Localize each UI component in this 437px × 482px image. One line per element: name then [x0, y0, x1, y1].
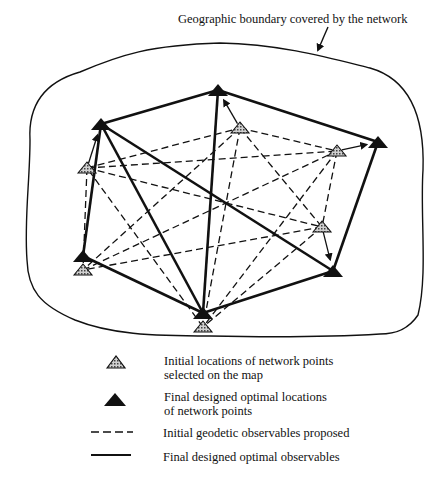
solid-observable-line [203, 271, 333, 313]
dashed-observable-line [240, 128, 337, 151]
hatched-triangle-icon [313, 221, 331, 232]
legend-line: Initial locations of network points [164, 354, 333, 368]
solid-observable-line [203, 90, 218, 313]
shift-arrow [224, 100, 237, 123]
solid-triangle-icon [91, 118, 111, 130]
boundary-caption: Geographic boundary covered by the netwo… [178, 12, 407, 26]
hatched-triangle-icon [328, 145, 346, 156]
legend-initial-locations-label: Initial locations of network points sele… [164, 354, 333, 382]
shift-arrow [342, 145, 366, 150]
solid-observable-line [83, 256, 203, 313]
hatched-triangle-icon [194, 321, 212, 332]
solid-observable-line [101, 124, 203, 313]
shift-arrow [323, 232, 330, 260]
legend-solid-triangle-icon [104, 393, 126, 406]
legend-line: of network points [164, 404, 327, 418]
legend-final-observables-label: Final designed optimal observables [163, 450, 340, 464]
solid-triangle-icon [208, 84, 228, 96]
dashed-observable-line [87, 168, 203, 327]
dashed-observable-line [83, 128, 240, 270]
final-observables [83, 90, 378, 313]
solid-triangle-icon [73, 250, 93, 262]
solid-triangle-icon [368, 136, 388, 148]
dashed-observable-line [87, 128, 240, 168]
geographic-boundary [26, 43, 423, 337]
legend-hatched-triangle-icon [107, 356, 125, 368]
solid-observable-line [218, 90, 378, 142]
boundary-pointer-arrow [318, 27, 328, 50]
dashed-observable-line [203, 151, 337, 327]
dashed-observable-line [87, 168, 322, 227]
legend-initial-observables-label: Initial geodetic observables proposed [163, 426, 349, 440]
solid-observable-line [101, 90, 218, 124]
dashed-observable-line [83, 227, 322, 270]
hatched-triangle-icon [231, 122, 249, 133]
legend-line: Final designed optimal locations [164, 390, 327, 404]
solid-observable-line [333, 142, 378, 271]
dashed-observable-line [322, 151, 337, 227]
legend-final-locations-label: Final designed optimal locations of netw… [164, 390, 327, 418]
dashed-observable-line [203, 227, 322, 327]
dashed-observable-line [240, 128, 322, 227]
legend-line: selected on the map [164, 368, 333, 382]
